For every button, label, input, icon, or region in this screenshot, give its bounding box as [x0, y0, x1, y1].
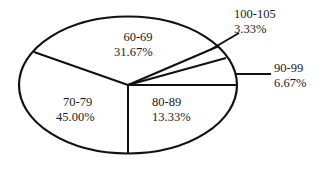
category-label: 60-69: [114, 30, 153, 45]
percent-label: 31.67%: [114, 45, 153, 60]
slice-label-100-105: 100-105 3.33%: [234, 7, 276, 37]
slice-label-60-69: 60-69 31.67%: [114, 30, 153, 60]
category-label: 70-79: [56, 95, 95, 110]
slice-label-80-89: 80-89 13.33%: [152, 95, 191, 125]
percent-label: 13.33%: [152, 110, 191, 125]
category-label: 100-105: [234, 7, 276, 22]
slice-label-90-99: 90-99 6.67%: [274, 61, 306, 91]
percent-label: 3.33%: [234, 22, 276, 37]
slice-label-70-79: 70-79 45.00%: [56, 95, 95, 125]
percent-label: 6.67%: [274, 76, 306, 91]
percent-label: 45.00%: [56, 110, 95, 125]
category-label: 90-99: [274, 61, 306, 76]
category-label: 80-89: [152, 95, 191, 110]
